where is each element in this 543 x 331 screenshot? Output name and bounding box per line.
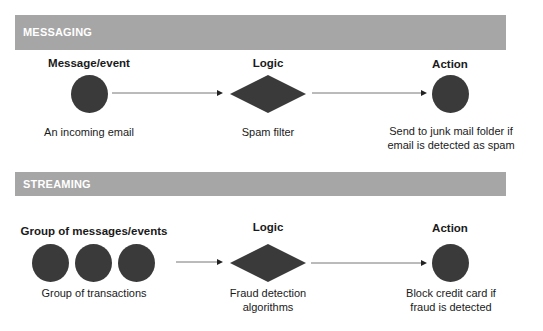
arrowhead-icon: [217, 259, 223, 265]
diagram-shapes: [0, 0, 543, 331]
logic-diamond-streaming: [230, 244, 306, 282]
arrowhead-icon: [217, 90, 223, 96]
arrowhead-icon: [421, 260, 427, 266]
arrowhead-icon: [421, 90, 427, 96]
logic-diamond: [230, 75, 306, 113]
